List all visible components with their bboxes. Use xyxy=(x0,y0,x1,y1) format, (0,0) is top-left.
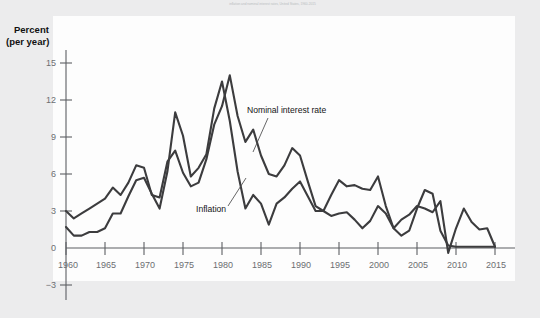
x-tick-group: 1960 1965 1970 1975 1980 1985 1990 1995 … xyxy=(58,242,506,270)
y-axis-title-line1: Percent xyxy=(14,24,50,35)
series-line-nominal-interest-rate xyxy=(66,75,495,246)
y-tick-label-15: 15 xyxy=(46,58,56,68)
x-tick-label-1960: 1960 xyxy=(58,260,78,270)
annotation-inflation: Inflation xyxy=(196,204,226,214)
figure-container: inflation and nominal interest rates, Un… xyxy=(0,0,540,318)
y-tick-label-0: 0 xyxy=(51,243,56,253)
x-tick-label-2000: 2000 xyxy=(369,260,389,270)
y-axis-title-line2: (per year) xyxy=(6,36,49,47)
x-tick-label-1980: 1980 xyxy=(213,260,233,270)
line-chart: 15 12 9 6 3 0 −3 1960 1965 1970 1975 xyxy=(0,0,540,318)
x-tick-label-1975: 1975 xyxy=(174,260,194,270)
x-tick-label-1970: 1970 xyxy=(135,260,155,270)
y-tick-label-neg3: −3 xyxy=(46,280,56,290)
x-tick-label-2005: 2005 xyxy=(408,260,428,270)
y-tick-label-3: 3 xyxy=(51,206,56,216)
y-tick-label-6: 6 xyxy=(51,169,56,179)
x-tick-label-1990: 1990 xyxy=(291,260,311,270)
x-tick-label-2015: 2015 xyxy=(486,260,506,270)
annotation-nominal-interest-rate: Nominal interest rate xyxy=(247,105,327,115)
y-tick-label-9: 9 xyxy=(51,132,56,142)
y-tick-label-12: 12 xyxy=(46,95,56,105)
y-tick-group: 15 12 9 6 3 0 −3 xyxy=(46,58,72,290)
x-tick-label-1995: 1995 xyxy=(330,260,350,270)
x-tick-label-1985: 1985 xyxy=(252,260,272,270)
x-tick-label-1965: 1965 xyxy=(96,260,116,270)
x-tick-label-2010: 2010 xyxy=(447,260,467,270)
